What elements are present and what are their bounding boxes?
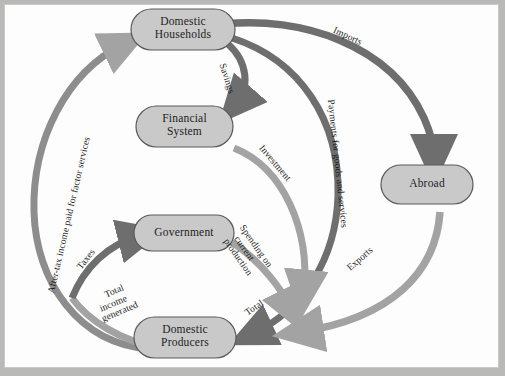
node-domestic-households[interactable] (131, 9, 235, 50)
node-domestic-producers[interactable] (134, 317, 236, 358)
node-government[interactable] (134, 215, 234, 251)
node-abroad[interactable] (381, 165, 473, 204)
circular-flow-diagram: Domestic Households Financial System Gov… (0, 0, 505, 376)
node-financial-system[interactable] (136, 106, 233, 147)
